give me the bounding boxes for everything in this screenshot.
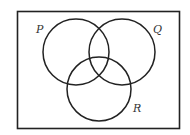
set-r-circle	[67, 57, 131, 121]
venn-diagram: P Q R	[0, 0, 190, 135]
set-q-circle	[89, 19, 155, 85]
set-p-label: P	[35, 23, 44, 36]
set-q-label: Q	[153, 23, 162, 36]
set-r-label: R	[132, 102, 141, 115]
